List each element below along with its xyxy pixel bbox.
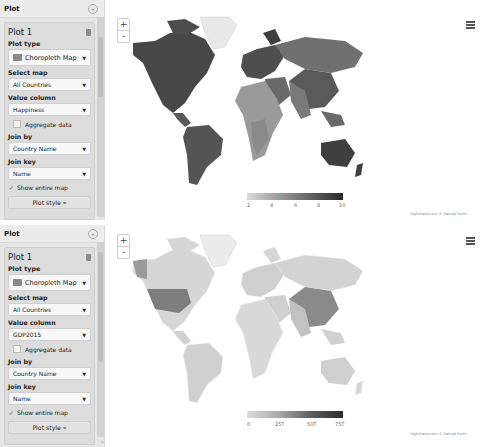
plot-settings-panel: Plot « Plot 1 Plot type Choropleth Map ▼… (0, 225, 105, 447)
plot-style-button[interactable]: Plot style » (8, 421, 91, 434)
select-map-value: All Countries (13, 81, 51, 88)
join-key-label: Join key (5, 156, 94, 166)
collapse-icon[interactable]: « (88, 229, 98, 239)
plot-type-value: Choropleth Map (25, 279, 77, 287)
select-map-select[interactable]: All Countries ▼ (8, 303, 91, 316)
plot-type-label: Plot type (5, 263, 94, 273)
show-entire-map-label: Show entire map (17, 409, 68, 416)
aggregate-data-label: Aggregate data (25, 346, 72, 353)
join-by-value: Country Name (13, 145, 56, 152)
checkbox-box[interactable] (13, 345, 21, 353)
caret-down-icon: ▼ (82, 280, 86, 286)
legend-tick: 2 (247, 202, 250, 208)
legend-tick: 50T (307, 421, 316, 427)
panel-header: Plot « (0, 0, 104, 18)
panel-scrollbar[interactable] (97, 17, 104, 217)
plot-card: Plot 1 Plot type Choropleth Map ▼ Select… (4, 247, 95, 445)
plot-row-gdp: Plot « Plot 1 Plot type Choropleth Map ▼… (0, 225, 490, 447)
legend-tick: 25T (275, 421, 284, 427)
show-entire-map-label: Show entire map (17, 184, 68, 191)
panel-header: Plot « (0, 225, 104, 243)
aggregate-data-checkbox[interactable]: Aggregate data (5, 117, 94, 131)
value-column-label: Value column (5, 317, 94, 327)
panel-scrollbar[interactable] (97, 242, 104, 437)
caret-down-icon: ▼ (82, 82, 86, 88)
join-by-label: Join by (5, 356, 94, 366)
caret-down-icon: ▼ (82, 107, 86, 113)
plot-settings-panel: Plot « Plot 1 Plot type Choropleth Map ▼… (0, 0, 105, 220)
value-column-select[interactable]: Happiness ▼ (8, 103, 91, 116)
caret-down-icon: ▼ (82, 55, 86, 61)
join-key-value: Name (13, 170, 31, 177)
join-by-label: Join by (5, 131, 94, 141)
legend-tick: 8 (317, 202, 320, 208)
legend-tick: 0 (247, 421, 250, 427)
plot-type-select[interactable]: Choropleth Map ▼ (8, 49, 91, 66)
select-map-value: All Countries (13, 306, 51, 313)
map-icon (13, 54, 22, 61)
join-by-select[interactable]: Country Name ▼ (8, 367, 91, 380)
checkbox-box[interactable] (13, 120, 21, 128)
show-entire-map-checkbox[interactable]: ✓ Show entire map (5, 181, 94, 194)
join-by-select[interactable]: Country Name ▼ (8, 142, 91, 155)
map-credits[interactable]: Highcharts.com © Natural Earth (410, 432, 467, 436)
value-column-label: Value column (5, 92, 94, 102)
check-icon: ✓ (9, 409, 14, 416)
value-column-value: GDP2015 (13, 331, 41, 338)
select-map-label: Select map (5, 292, 94, 302)
show-entire-map-checkbox[interactable]: ✓ Show entire map (5, 406, 94, 419)
scroll-down-icon[interactable]: ⌄ (100, 437, 105, 444)
card-title: Plot 1 (8, 252, 32, 262)
legend-tick: 6 (294, 202, 297, 208)
caret-down-icon: ▼ (82, 332, 86, 338)
value-column-select[interactable]: GDP2015 ▼ (8, 328, 91, 341)
caret-down-icon: ▼ (82, 307, 86, 313)
caret-down-icon: ▼ (82, 396, 86, 402)
plot-row-happiness: Plot « Plot 1 Plot type Choropleth Map ▼… (0, 0, 490, 220)
join-key-label: Join key (5, 381, 94, 391)
select-map-select[interactable]: All Countries ▼ (8, 78, 91, 91)
hamburger-menu-icon[interactable] (466, 236, 475, 246)
join-key-select[interactable]: Name ▼ (8, 167, 91, 180)
caret-down-icon: ▼ (82, 146, 86, 152)
join-key-select[interactable]: Name ▼ (8, 392, 91, 405)
panel-title: Plot (4, 230, 20, 238)
check-icon: ✓ (9, 184, 14, 191)
choropleth-map-gdp[interactable] (125, 233, 365, 403)
plot-card: Plot 1 Plot type Choropleth Map ▼ Select… (4, 22, 95, 220)
scroll-thumb[interactable] (98, 252, 103, 362)
color-legend-bar (247, 411, 343, 418)
legend-tick: 4 (270, 202, 273, 208)
plot-type-value: Choropleth Map (25, 54, 77, 62)
collapse-icon[interactable]: « (88, 4, 98, 14)
plot-type-select[interactable]: Choropleth Map ▼ (8, 274, 91, 291)
select-map-label: Select map (5, 67, 94, 77)
caret-down-icon: ▼ (82, 371, 86, 377)
map-credits[interactable]: Highcharts.com © Natural Earth (410, 212, 467, 216)
card-title: Plot 1 (8, 27, 32, 37)
choropleth-map-happiness[interactable] (125, 15, 365, 185)
legend-tick: 75T (335, 421, 344, 427)
aggregate-data-checkbox[interactable]: Aggregate data (5, 342, 94, 356)
hamburger-menu-icon[interactable] (466, 20, 475, 30)
caret-down-icon: ▼ (82, 171, 86, 177)
join-by-value: Country Name (13, 370, 56, 377)
join-key-value: Name (13, 395, 31, 402)
legend-tick: 10 (339, 202, 345, 208)
value-column-value: Happiness (13, 106, 44, 113)
scroll-thumb[interactable] (98, 37, 103, 97)
map-icon (13, 279, 22, 286)
color-legend-bar (247, 193, 343, 200)
aggregate-data-label: Aggregate data (25, 121, 72, 128)
trash-icon[interactable] (86, 254, 91, 261)
panel-title: Plot (4, 5, 20, 13)
trash-icon[interactable] (86, 29, 91, 36)
plot-style-button[interactable]: Plot style » (8, 196, 91, 209)
plot-type-label: Plot type (5, 38, 94, 48)
